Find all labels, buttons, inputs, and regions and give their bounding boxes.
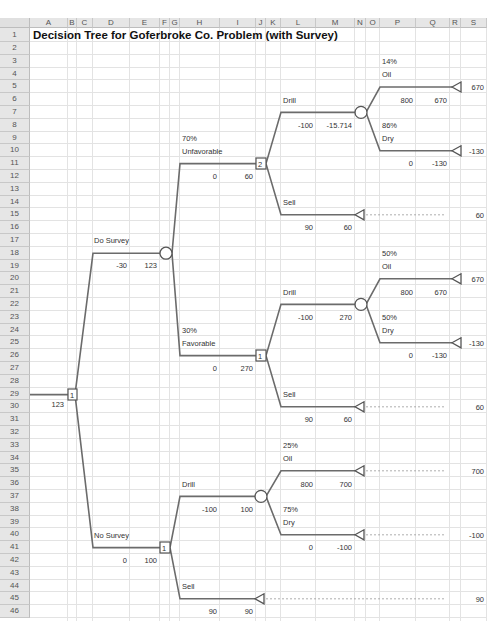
chance-node-unfav-drill — [355, 106, 367, 118]
chance-node-survey — [160, 247, 172, 259]
unfav-oil-label: Oil — [382, 70, 391, 80]
fav-dry-value: -130 — [416, 351, 447, 361]
fav-sell-payoff: 90 — [281, 415, 313, 425]
fav-drill-value: 270 — [316, 313, 352, 323]
do-survey-label: Do Survey — [94, 236, 129, 246]
nosurvey-dry-prob: 75% — [283, 505, 298, 515]
unfav-sell-value: 60 — [316, 223, 352, 233]
nosurvey-oil-prob: 25% — [283, 441, 298, 451]
fav-sell-label: Sell — [283, 390, 296, 400]
unfav-sell-label: Sell — [283, 198, 296, 208]
unfav-oil-payoff: 800 — [380, 96, 413, 106]
nosurvey-sell-payoff: 90 — [180, 607, 217, 617]
unfav-dry-prob: 86% — [382, 121, 397, 131]
fav-node-label: 1 — [258, 352, 262, 361]
favorable-prob: 30% — [182, 326, 197, 336]
fav-oil-value: 670 — [416, 288, 447, 298]
nosurvey-sell-terminal: 90 — [461, 595, 484, 605]
unfav-oil-value: 670 — [416, 96, 447, 106]
nosurvey-dry-terminal: -100 — [461, 531, 484, 541]
fav-oil-payoff: 800 — [380, 288, 413, 298]
unfav-sell-terminal: 60 — [461, 211, 484, 221]
fav-oil-terminal: 670 — [461, 275, 484, 285]
unfavorable-label: Unfavorable — [182, 147, 222, 157]
favorable-value: 270 — [220, 364, 253, 374]
nosurvey-oil-terminal: 700 — [461, 467, 484, 477]
unfav-drill-label: Drill — [283, 96, 296, 106]
nosurvey-drill-cost: -100 — [180, 505, 217, 515]
fav-drill-cost: -100 — [281, 313, 313, 323]
do-survey-cost: -30 — [93, 261, 127, 271]
nosurvey-node-label: 1 — [162, 544, 166, 553]
no-survey-cost: 0 — [93, 556, 127, 566]
fav-dry-prob: 50% — [382, 313, 397, 323]
unfav-sell-payoff: 90 — [281, 223, 313, 233]
nosurvey-dry-payoff: 0 — [281, 543, 313, 553]
nosurvey-sell-label: Sell — [182, 582, 195, 592]
unfavorable-value: 60 — [220, 172, 253, 182]
nosurvey-sell-value: 90 — [220, 607, 253, 617]
spreadsheet: ABCDEFGHIJKLMNOPQRS 12345678910111213141… — [0, 0, 494, 632]
chance-node-fav-drill — [355, 298, 367, 310]
fav-dry-terminal: -130 — [461, 339, 484, 349]
fav-oil-prob: 50% — [382, 249, 397, 259]
unfav-node-label: 2 — [258, 160, 262, 169]
favorable-cost: 0 — [180, 364, 217, 374]
fav-oil-label: Oil — [382, 262, 391, 272]
fav-sell-terminal: 60 — [461, 403, 484, 413]
nosurvey-dry-value: -100 — [316, 543, 352, 553]
fav-dry-label: Dry — [382, 326, 394, 336]
unfav-drill-cost: -100 — [281, 121, 313, 131]
unfav-oil-prob: 14% — [382, 57, 397, 67]
root-node-label: 1 — [70, 391, 74, 400]
no-survey-value: 100 — [130, 556, 157, 566]
unfav-dry-terminal: -130 — [461, 147, 484, 157]
favorable-label: Favorable — [182, 339, 215, 349]
unfav-dry-value: -130 — [416, 159, 447, 169]
unfavorable-cost: 0 — [180, 172, 217, 182]
fav-sell-value: 60 — [316, 415, 352, 425]
chance-node-nosurvey-drill — [255, 490, 267, 502]
root-value: 123 — [30, 400, 64, 410]
no-survey-label: No Survey — [94, 531, 129, 541]
unfav-oil-terminal: 670 — [461, 83, 484, 93]
fav-dry-payoff: 0 — [380, 351, 413, 361]
unfavorable-prob: 70% — [182, 134, 197, 144]
nosurvey-oil-value: 700 — [316, 480, 352, 490]
nosurvey-oil-payoff: 800 — [281, 480, 313, 490]
nosurvey-dry-label: Dry — [283, 518, 295, 528]
fav-drill-label: Drill — [283, 288, 296, 298]
nosurvey-oil-label: Oil — [283, 454, 292, 464]
unfav-drill-value: -15.714 — [316, 121, 352, 131]
do-survey-value: 123 — [130, 261, 157, 271]
decision-tree-diagram: 1 2 1 1 — [0, 0, 494, 632]
unfav-dry-label: Dry — [382, 134, 394, 144]
nosurvey-drill-label: Drill — [182, 480, 195, 490]
nosurvey-drill-value: 100 — [220, 505, 253, 515]
unfav-dry-payoff: 0 — [380, 159, 413, 169]
